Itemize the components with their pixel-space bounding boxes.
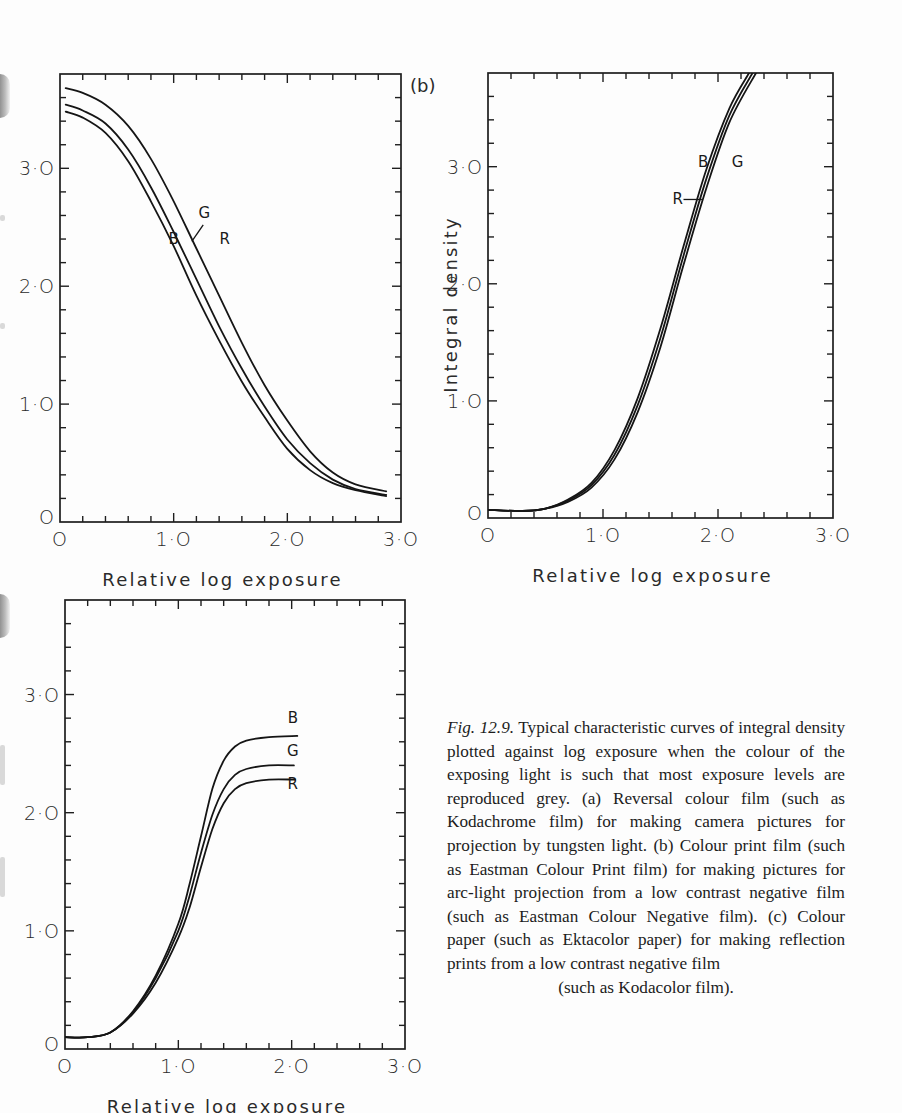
curve-g [488,73,756,511]
x-tick-label: 1·O [160,1055,196,1077]
x-tick-label: O [52,528,68,550]
figure-caption: Fig. 12.9. Typical characteristic curves… [447,716,845,999]
y-tick-label: 1·O [24,920,60,942]
x-tick-label: 3·O [815,524,851,546]
y-tick-label: 3·O [447,156,483,178]
x-axis-title: Relative log exposure [532,565,772,586]
book-page: O1·O2·O3·OO1·O2·O3·ORelative log exposur… [0,0,902,1113]
y-tick-label: 2·O [19,275,55,297]
y-tick-label: O [39,506,55,528]
plot-frame [60,74,401,522]
x-axis-title: Relative log exposure [107,1096,347,1113]
chart-panel-b: O1·O2·O3·OO1·O2·O3·ORelative log exposur… [440,73,851,586]
y-tick-label: 3·O [24,684,60,706]
x-tick-label: 2·O [274,1055,310,1077]
curve-r [66,88,387,491]
caption-body: Typical characteristic curves of integra… [447,718,845,973]
curve-label-g: G [732,153,744,171]
curve-r [65,779,295,1037]
curve-label-b: B [288,709,298,727]
y-tick-label: 3·O [19,157,55,179]
chart-panel-a: O1·O2·O3·OO1·O2·O3·ORelative log exposur… [19,74,419,590]
y-tick-label: 1·O [19,393,55,415]
curve-r [488,73,753,511]
x-tick-label: O [57,1055,73,1077]
y-tick-label: 2·O [24,802,60,824]
chart-panel-c: O1·O2·O3·OO1·O2·O3·ORelative log exposur… [24,600,423,1113]
y-tick-label: O [467,502,483,524]
curve-label-g: G [287,742,299,760]
x-tick-label: 3·O [387,1055,423,1077]
curve-label-r: R [288,775,298,793]
x-tick-label: 1·O [156,528,192,550]
curve-b [488,73,749,511]
curve-label-b: B [698,153,708,171]
y-tick-label: O [44,1033,60,1055]
plot-frame [65,600,405,1049]
curve-label-b: B [169,230,179,248]
curve-g [66,105,387,495]
plot-frame [488,73,833,518]
x-tick-label: 2·O [269,528,305,550]
curve-label-r: R [673,190,683,208]
curve-b [65,736,297,1038]
caption-last-line: (such as Kodacolor film). [447,976,845,1000]
x-axis-title: Relative log exposure [102,569,342,590]
panel-tag-b: (b) [410,75,435,96]
x-tick-label: 2·O [700,524,736,546]
x-tick-label: O [480,524,496,546]
y-axis-title: Integral density [440,216,461,393]
curve-b [66,112,387,496]
curve-label-g: G [199,204,211,222]
x-tick-label: 1·O [585,524,621,546]
x-tick-label: 3·O [383,528,419,550]
figure-number: Fig. 12.9. [447,718,514,737]
curve-g [65,765,294,1037]
curve-label-r: R [220,230,230,248]
leader-line-g [192,225,203,242]
